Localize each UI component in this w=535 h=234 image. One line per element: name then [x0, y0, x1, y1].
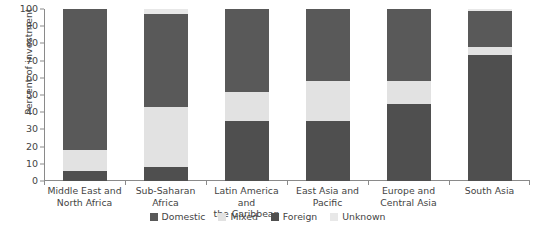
bar-segment-domestic[interactable]	[306, 9, 350, 81]
y-axis-tick-label: 60	[26, 73, 38, 83]
legend-swatch-icon	[330, 213, 338, 221]
bar-segment-mixed[interactable]	[63, 150, 107, 171]
x-axis-label-line: Pacific	[288, 197, 367, 209]
x-axis-label-line: East Asia and	[288, 185, 367, 197]
x-axis-label-line: Africa	[126, 197, 205, 209]
stacked-bar[interactable]	[387, 9, 431, 181]
y-axis-tick-label: 70	[26, 56, 38, 66]
x-axis-label-line: Middle East and	[45, 185, 124, 197]
bar-segment-mixed[interactable]	[387, 81, 431, 103]
bar-group	[44, 9, 125, 181]
bar-segment-foreign[interactable]	[387, 104, 431, 181]
bar-segment-domestic[interactable]	[225, 9, 269, 92]
legend-swatch-icon	[271, 213, 279, 221]
bars-container	[44, 9, 530, 181]
y-axis-tick-label: 30	[26, 125, 38, 135]
legend-item-foreign[interactable]: Foreign	[271, 212, 317, 221]
legend-item-domestic[interactable]: Domestic	[150, 212, 206, 221]
bar-segment-domestic[interactable]	[63, 9, 107, 150]
legend-label: Domestic	[162, 212, 206, 221]
bar-segment-domestic[interactable]	[144, 14, 188, 107]
legend-swatch-icon	[218, 213, 226, 221]
y-axis-tick-label: 100	[20, 4, 38, 14]
bar-group	[125, 9, 206, 181]
bar-segment-foreign[interactable]	[144, 167, 188, 181]
y-axis-tick-label: 20	[26, 142, 38, 152]
stacked-bar-chart: Percent of investment 010203040506070809…	[0, 0, 535, 234]
bar-segment-domestic[interactable]	[387, 9, 431, 81]
x-axis-label-line: Europe and	[369, 185, 448, 197]
stacked-bar[interactable]	[468, 9, 512, 181]
bar-group	[368, 9, 449, 181]
bar-segment-mixed[interactable]	[468, 47, 512, 56]
x-axis-label-line: Sub-Saharan	[126, 185, 205, 197]
x-axis-label-line: Latin America and	[207, 185, 286, 208]
legend-label: Foreign	[283, 212, 317, 221]
legend-item-unknown[interactable]: Unknown	[330, 212, 385, 221]
legend-label: Mixed	[230, 212, 257, 221]
y-axis-tick-label: 80	[26, 39, 38, 49]
y-axis-tick-label: 50	[26, 90, 38, 100]
x-axis-label-line: North Africa	[45, 197, 124, 209]
stacked-bar[interactable]	[144, 9, 188, 181]
y-axis-tick-label: 0	[32, 176, 38, 186]
y-axis-tick-label: 90	[26, 21, 38, 31]
bar-segment-foreign[interactable]	[63, 171, 107, 181]
chart-legend: DomesticMixedForeignUnknown	[0, 212, 535, 221]
y-axis-tick-label: 40	[26, 107, 38, 117]
legend-swatch-icon	[150, 213, 158, 221]
bar-group	[287, 9, 368, 181]
plot-area: 0102030405060708090100	[44, 9, 530, 181]
bar-segment-foreign[interactable]	[468, 55, 512, 181]
bar-group	[206, 9, 287, 181]
y-axis-ticks: 0102030405060708090100	[8, 9, 44, 181]
legend-item-mixed[interactable]: Mixed	[218, 212, 257, 221]
stacked-bar[interactable]	[306, 9, 350, 181]
stacked-bar[interactable]	[225, 9, 269, 181]
bar-segment-domestic[interactable]	[468, 11, 512, 47]
bar-segment-foreign[interactable]	[225, 121, 269, 181]
legend-label: Unknown	[342, 212, 385, 221]
bar-group	[449, 9, 530, 181]
bar-segment-mixed[interactable]	[144, 107, 188, 167]
stacked-bar[interactable]	[63, 9, 107, 181]
x-axis-label-line: South Asia	[450, 185, 529, 197]
bar-segment-foreign[interactable]	[306, 121, 350, 181]
bar-segment-mixed[interactable]	[306, 81, 350, 121]
bar-segment-mixed[interactable]	[225, 92, 269, 121]
y-axis-tick-label: 10	[26, 159, 38, 169]
x-axis-label-line: Central Asia	[369, 197, 448, 209]
